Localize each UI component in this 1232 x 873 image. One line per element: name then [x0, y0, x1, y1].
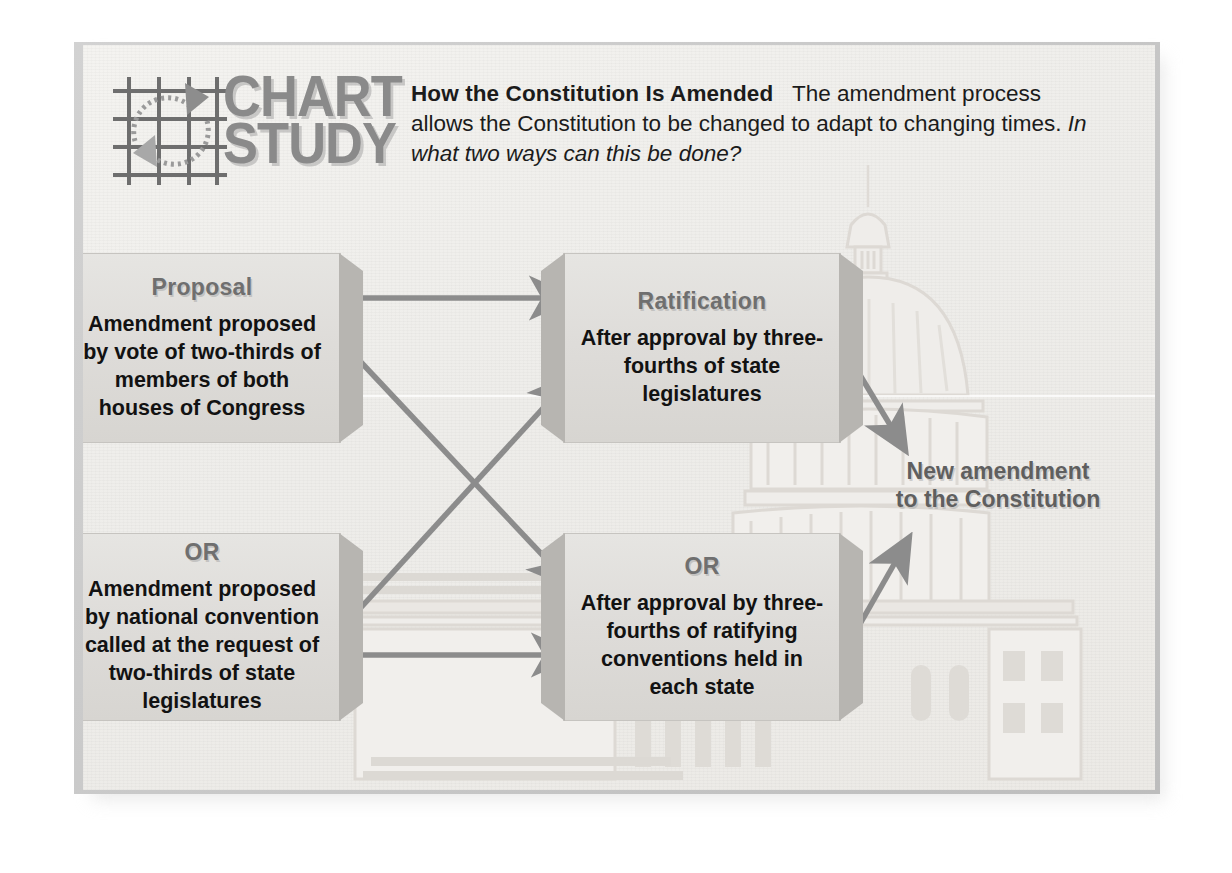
node-proposal-body: Amendment proposed by vote of two-thirds… — [83, 310, 337, 423]
node-proposal-or-content: OR Amendment proposed by national conven… — [83, 533, 337, 721]
node-proposal-or-heading: OR — [184, 539, 219, 566]
arrow-proposal-to-ratification-or — [342, 342, 565, 579]
node-ratification-or-3d-side — [839, 533, 863, 721]
node-proposal-or-3d-side — [339, 533, 363, 721]
node-ratification-heading: Ratification — [638, 288, 767, 315]
node-ratification-3d-side — [839, 253, 863, 443]
node-proposal-content: Proposal Amendment proposed by vote of t… — [83, 253, 337, 443]
node-ratification-content: Ratification After approval by three-fou… — [567, 253, 837, 443]
chart-study-figure: CHART STUDY How the Constitution Is Amen… — [0, 0, 1232, 873]
node-ratification-or-3d-left — [539, 533, 565, 721]
figure-panel: CHART STUDY How the Constitution Is Amen… — [83, 45, 1155, 790]
node-ratification[interactable]: Ratification After approval by three-fou… — [563, 253, 863, 443]
node-proposal-or-body: Amendment proposed by national conventio… — [83, 575, 337, 716]
result-line-2: to the Constitution — [873, 485, 1123, 513]
node-ratification-or[interactable]: OR After approval by three-fourths of ra… — [563, 533, 863, 721]
node-proposal-3d-side — [339, 253, 363, 443]
node-proposal[interactable]: Proposal Amendment proposed by vote of t… — [83, 253, 363, 443]
result-line-1: New amendment — [873, 457, 1123, 485]
node-ratification-or-body: After approval by three-fourths of ratif… — [567, 589, 837, 702]
node-ratification-3d-left — [539, 253, 565, 443]
node-proposal-or[interactable]: OR Amendment proposed by national conven… — [83, 533, 363, 721]
node-ratification-or-heading: OR — [684, 553, 719, 580]
node-ratification-body: After approval by three-fourths of state… — [567, 324, 837, 408]
node-ratification-or-content: OR After approval by three-fourths of ra… — [567, 533, 837, 721]
node-proposal-heading: Proposal — [152, 274, 253, 301]
result-new-amendment: New amendment to the Constitution — [873, 457, 1123, 513]
arrow-proposal-or-to-ratification — [345, 383, 566, 625]
